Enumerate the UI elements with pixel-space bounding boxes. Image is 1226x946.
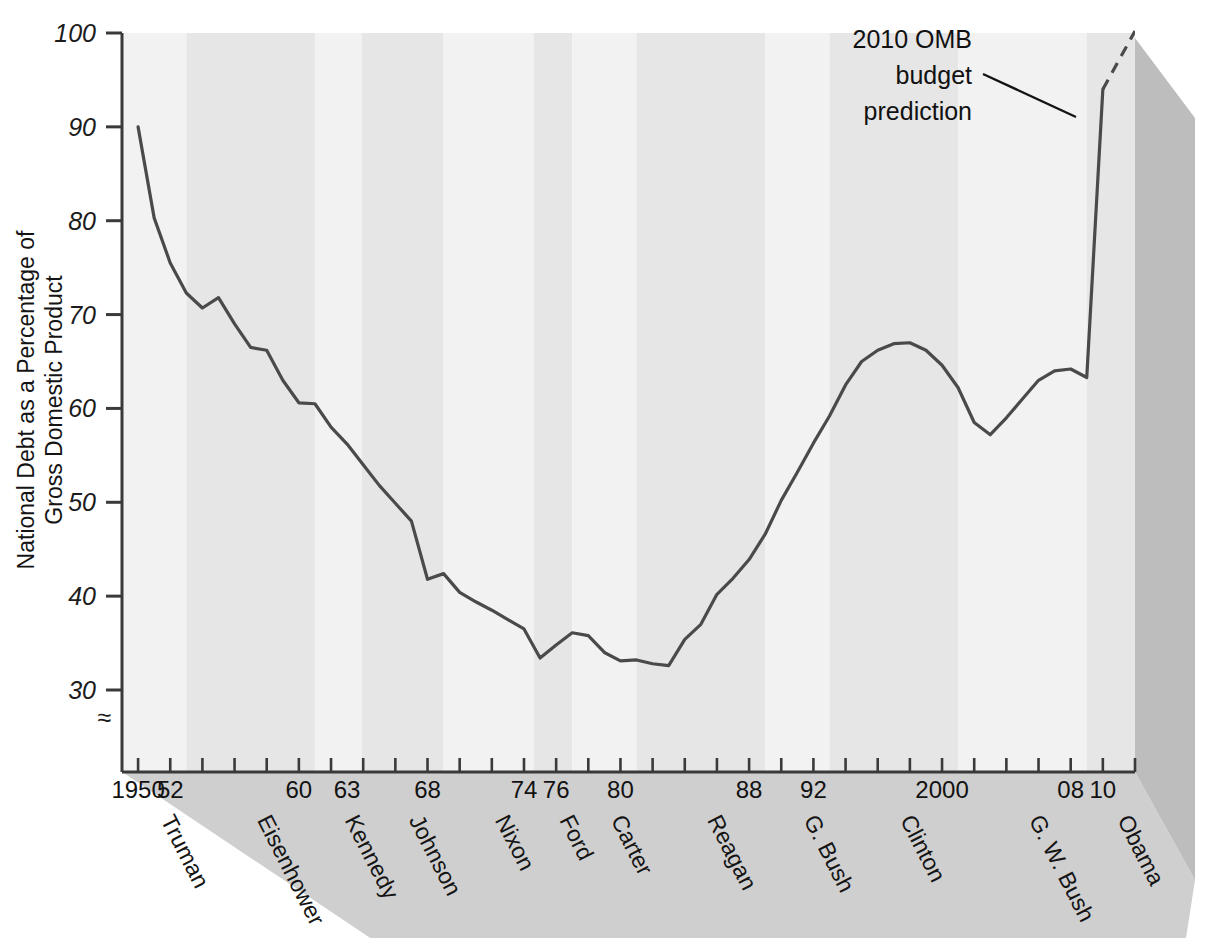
y-tick-label-100: 100 [54,19,96,47]
term-band-ford [534,33,573,772]
x-tick-label-76: 76 [543,776,570,803]
term-band-johnson [362,33,444,772]
x-tick-label-52: 52 [157,776,184,803]
term-band-g-bush [765,33,829,772]
term-band-nixon [444,33,534,772]
y-tick-label-40: 40 [68,582,96,610]
y-tick-label-60: 60 [68,394,96,422]
x-tick-label-88: 88 [736,776,763,803]
y-axis-break-icon: ≈ [97,703,111,731]
y-tick-label-50: 50 [68,488,96,516]
x-tick-label-92: 92 [800,776,827,803]
x-tick-label-08: 08 [1057,776,1084,803]
term-band-obama [1087,33,1135,772]
annotation-line-2: budget [896,61,973,89]
term-band-g-w-bush [958,33,1087,772]
y-tick-label-70: 70 [68,301,96,329]
annotation-line-3: prediction [864,97,972,125]
term-band-clinton [829,33,958,772]
y-tick-label-80: 80 [68,207,96,235]
term-band-truman [122,33,186,772]
x-tick-label-10: 10 [1089,776,1116,803]
x-tick-label-68: 68 [414,776,441,803]
x-tick-label-2000: 2000 [915,776,968,803]
x-tick-label-80: 80 [607,776,634,803]
annotation-line-1: 2010 OMB [852,25,972,53]
y-tick-label-90: 90 [68,113,96,141]
term-band-kennedy [315,33,362,772]
chart-figure: 30405060708090100 1950526063687476808892… [0,0,1226,946]
term-band-eisenhower [186,33,315,772]
y-axis-title-line-2: Gross Domestic Product [41,275,67,525]
term-band-reagan [637,33,766,772]
x-tick-label-63: 63 [334,776,361,803]
y-axis-ticks [106,33,122,690]
national-debt-line-chart: 30405060708090100 1950526063687476808892… [0,0,1226,946]
x-tick-label-60: 60 [286,776,313,803]
x-tick-label-74: 74 [511,776,538,803]
y-axis-title-line-1: National Debt as a Percentage of [13,230,39,569]
y-tick-label-30: 30 [68,676,96,704]
chart-right-face-3d [1135,38,1195,880]
